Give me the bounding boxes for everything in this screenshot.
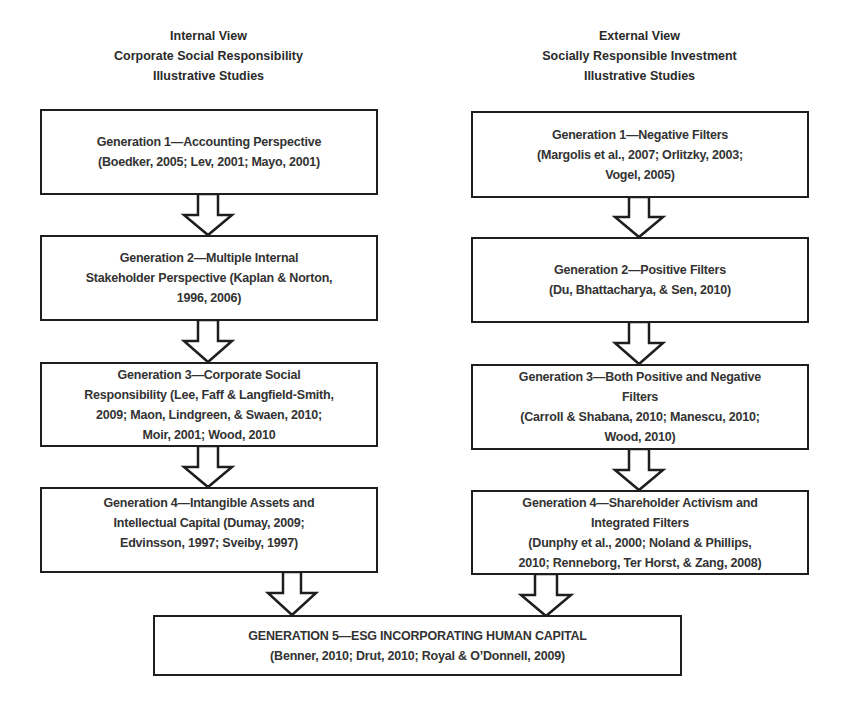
box-citation: (Benner, 2010; Drut, 2010; Royal & O’Don… <box>270 646 565 666</box>
box-text: Responsibility (Lee, Faff & Langfield-Sm… <box>84 385 334 405</box>
box-citation: Wood, 2010) <box>604 427 675 447</box>
box-citation: Edvinsson, 1997; Sveiby, 1997) <box>120 533 298 553</box>
box-citation: 2009; Maon, Lindgreen, & Swaen, 2010; <box>96 405 322 425</box>
internal-generation-3-box: Generation 3—Corporate Social Responsibi… <box>40 362 378 447</box>
box-title: Generation 3—Corporate Social <box>117 365 300 385</box>
box-citation: 1996, 2006) <box>177 288 242 308</box>
box-title: Generation 4—Intangible Assets and <box>104 493 315 513</box>
box-text: Integrated Filters <box>591 513 689 533</box>
box-citation: 2010; Renneborg, Ter Horst, & Zang, 2008… <box>518 553 761 573</box>
arrow-down-icon <box>521 574 571 616</box>
internal-generation-1-box: Generation 1—Accounting Perspective (Boe… <box>40 109 378 195</box>
internal-generation-4-box: Generation 4—Intangible Assets and Intel… <box>40 487 378 573</box>
box-text: Filters <box>622 387 658 407</box>
external-generation-4-box: Generation 4—Shareholder Activism and In… <box>471 490 809 575</box>
external-generation-3-box: Generation 3—Both Positive and Negative … <box>471 364 809 450</box>
box-citation: (Boedker, 2005; Lev, 2001; Mayo, 2001) <box>98 152 320 172</box>
box-citation: (Dunphy et al., 2000; Noland & Phillips, <box>528 533 751 553</box>
arrow-down-icon <box>184 320 232 362</box>
box-title: Generation 2—Multiple Internal <box>120 248 299 268</box>
external-generation-1-box: Generation 1—Negative Filters (Margolis … <box>471 111 809 198</box>
box-title: Generation 1—Accounting Perspective <box>97 132 321 152</box>
box-citation: Vogel, 2005) <box>605 165 675 185</box>
box-title: Generation 2—Positive Filters <box>554 260 726 280</box>
arrow-down-icon <box>615 197 663 237</box>
generation-5-box: GENERATION 5—ESG INCORPORATING HUMAN CAP… <box>153 615 682 676</box>
arrow-down-icon <box>615 449 663 490</box>
arrow-down-icon <box>184 446 232 487</box>
box-citation: (Carroll & Shabana, 2010; Manescu, 2010; <box>520 407 759 427</box>
arrow-down-icon <box>615 322 663 364</box>
external-generation-2-box: Generation 2—Positive Filters (Du, Bhatt… <box>471 237 809 323</box>
box-text: Intellectual Capital (Dumay, 2009; <box>114 513 305 533</box>
box-title: Generation 3—Both Positive and Negative <box>519 367 761 387</box>
box-text: Stakeholder Perspective (Kaplan & Norton… <box>86 268 333 288</box>
flow-arrows <box>0 0 841 708</box>
box-title: Generation 1—Negative Filters <box>552 125 728 145</box>
box-title: Generation 4—Shareholder Activism and <box>522 493 757 513</box>
arrow-down-icon <box>268 572 316 615</box>
arrow-down-icon <box>184 194 232 235</box>
box-citation: (Margolis et al., 2007; Orlitzky, 2003; <box>537 145 743 165</box>
internal-generation-2-box: Generation 2—Multiple Internal Stakehold… <box>40 235 378 321</box>
box-citation: (Du, Bhattacharya, & Sen, 2010) <box>549 280 731 300</box>
box-title: GENERATION 5—ESG INCORPORATING HUMAN CAP… <box>248 626 586 646</box>
box-citation: Moir, 2001; Wood, 2010 <box>143 425 276 445</box>
